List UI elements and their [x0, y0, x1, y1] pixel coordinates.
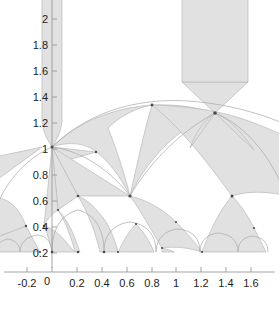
tile-large-arc-right [152, 105, 279, 196]
y-tick-label: 1 [20, 143, 48, 155]
tile-bowtie-upper-extension [182, 0, 248, 82]
x-tick-label: 0.4 [94, 277, 109, 289]
x-tick-label: 1.2 [193, 277, 208, 289]
tile-small-arc-4 [162, 248, 174, 252]
x-tick-label: 1.4 [218, 277, 233, 289]
data-point [151, 104, 154, 107]
data-point [213, 111, 217, 115]
data-point [103, 251, 106, 254]
data-point [77, 251, 80, 254]
data-point [117, 251, 119, 253]
y-tick-label: 1.2 [20, 117, 48, 129]
y-tick-label: 2 [20, 13, 48, 25]
data-point [128, 194, 131, 197]
tile-small-arc-2 [78, 196, 118, 252]
x-tick-label: 0.6 [119, 277, 134, 289]
x-tick-label: 0.8 [144, 277, 159, 289]
x-tick-label: 0 [44, 275, 50, 287]
data-point [135, 223, 137, 225]
tile-small-arc-5 [118, 224, 154, 252]
x-tick-label: 0.2 [69, 277, 84, 289]
x-tick-label: 1.6 [243, 277, 258, 289]
plot-figure: -0.2 0 0.2 0.4 0.6 0.8 1 1.2 1.4 1.6 0.2… [0, 0, 279, 313]
x-axis-ticks [27, 267, 251, 272]
data-point [51, 146, 54, 149]
y-tick-label: 0.4 [20, 221, 48, 233]
y-tick-label: 0.6 [20, 195, 48, 207]
tile-mid-arc-chain-right [202, 196, 266, 252]
data-point [161, 247, 163, 249]
data-point [51, 251, 54, 254]
y-tick-label: 1.6 [20, 65, 48, 77]
y-tick-label: 0.8 [20, 169, 48, 181]
y-tick-label: 1.4 [20, 91, 48, 103]
data-point [77, 195, 80, 198]
data-point [231, 195, 234, 198]
x-tick-label: -0.2 [18, 277, 37, 289]
data-point [201, 251, 203, 253]
y-tick-label: 0.2 [20, 247, 48, 259]
data-point [95, 151, 97, 153]
y-tick-label: 1.8 [20, 39, 48, 51]
x-tick-label: 1 [173, 277, 179, 289]
data-point [253, 227, 255, 229]
data-point [57, 209, 59, 211]
data-point [175, 221, 177, 223]
